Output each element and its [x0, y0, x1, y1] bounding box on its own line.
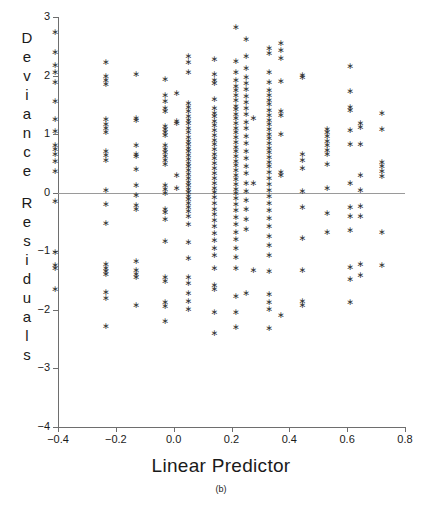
data-point: ∗: [347, 127, 354, 134]
data-point: ∗: [185, 306, 192, 313]
data-point: ∗: [347, 276, 354, 283]
data-point: ∗: [102, 81, 109, 88]
data-point: ∗: [242, 206, 249, 213]
x-tick-label: −0.4: [37, 434, 79, 445]
y-title-char: a: [23, 104, 31, 123]
data-point: ∗: [242, 36, 249, 43]
y-title-char: e: [23, 212, 31, 231]
data-point: ∗: [378, 173, 385, 180]
data-point: ∗: [52, 116, 59, 123]
data-point: ∗: [250, 115, 257, 122]
data-point: ∗: [52, 265, 59, 272]
data-point: ∗: [211, 80, 218, 87]
data-point: ∗: [323, 151, 330, 158]
data-point: ∗: [161, 161, 168, 168]
data-point: ∗: [250, 267, 257, 274]
data-point: ∗: [378, 110, 385, 117]
y-tick-label: −3: [24, 362, 50, 373]
data-point: ∗: [133, 302, 140, 309]
data-point: ∗: [52, 49, 59, 56]
data-point: ∗: [277, 112, 284, 119]
data-point: ∗: [161, 303, 168, 310]
data-point: ∗: [232, 24, 239, 31]
data-point: ∗: [211, 96, 218, 103]
data-point: ∗: [52, 168, 59, 175]
data-point: ∗: [232, 265, 239, 272]
data-point: ∗: [232, 254, 239, 261]
data-point: ∗: [266, 268, 273, 275]
data-point: ∗: [357, 172, 364, 179]
data-point: ∗: [52, 158, 59, 165]
data-point: ∗: [299, 204, 306, 211]
data-point: ∗: [242, 65, 249, 72]
data-point: ∗: [347, 107, 354, 114]
data-point: ∗: [102, 295, 109, 302]
x-tick-label: 0.8: [384, 434, 426, 445]
data-point: ∗: [161, 238, 168, 245]
y-title-char: d: [23, 269, 31, 288]
data-point: ∗: [266, 325, 273, 332]
x-tick-mark: [116, 427, 117, 432]
data-point: ∗: [102, 271, 109, 278]
data-point: ∗: [323, 185, 330, 192]
data-point: ∗: [357, 124, 364, 131]
data-point: ∗: [299, 302, 306, 309]
data-point: ∗: [266, 50, 273, 57]
y-tick-label: −1: [24, 245, 50, 256]
y-title-char: c: [23, 142, 31, 161]
data-point: ∗: [242, 226, 249, 233]
data-point: ∗: [347, 227, 354, 234]
x-tick-mark: [405, 427, 406, 432]
data-point: ∗: [299, 267, 306, 274]
data-point: ∗: [133, 166, 140, 173]
data-point: ∗: [161, 108, 168, 115]
panel-caption: (b): [0, 484, 442, 494]
data-point: ∗: [173, 120, 180, 127]
data-point: ∗: [161, 278, 168, 285]
y-title-word: Deviance: [22, 28, 33, 180]
data-point: ∗: [378, 126, 385, 133]
data-point: ∗: [211, 330, 218, 337]
y-tick-label: 0: [24, 187, 50, 198]
y-title-char: e: [23, 47, 31, 66]
x-tick-label: 0.2: [211, 434, 253, 445]
data-point: ∗: [250, 180, 257, 187]
data-point: ∗: [242, 188, 249, 195]
data-point: ∗: [347, 264, 354, 271]
data-point: ∗: [299, 74, 306, 81]
data-point: ∗: [357, 203, 364, 210]
x-tick-label: 0.0: [153, 434, 195, 445]
data-point: ∗: [52, 98, 59, 105]
data-point: ∗: [266, 252, 273, 259]
data-point: ∗: [161, 132, 168, 139]
x-tick-mark: [347, 427, 348, 432]
data-point: ∗: [266, 306, 273, 313]
data-point: ∗: [347, 180, 354, 187]
data-point: ∗: [133, 71, 140, 78]
data-point: ∗: [242, 170, 249, 177]
data-point: ∗: [185, 69, 192, 76]
data-point: ∗: [173, 185, 180, 192]
data-point: ∗: [357, 213, 364, 220]
data-point: ∗: [185, 239, 192, 246]
data-point: ∗: [102, 323, 109, 330]
x-tick-label: 0.6: [326, 434, 368, 445]
data-point: ∗: [185, 280, 192, 287]
data-point: ∗: [232, 245, 239, 252]
y-tick-label: −2: [24, 304, 50, 315]
data-point: ∗: [52, 286, 59, 293]
data-point: ∗: [102, 187, 109, 194]
data-point: ∗: [232, 236, 239, 243]
data-point: ∗: [173, 172, 180, 179]
data-point: ∗: [242, 290, 249, 297]
data-point: ∗: [323, 210, 330, 217]
data-point: ∗: [266, 242, 273, 249]
data-point: ∗: [133, 192, 140, 199]
data-point: ∗: [266, 223, 273, 230]
data-point: ∗: [323, 229, 330, 236]
data-point: ∗: [52, 29, 59, 36]
data-point: ∗: [357, 141, 364, 148]
x-tick-mark: [58, 427, 59, 432]
x-axis-title: Linear Predictor: [0, 455, 442, 477]
y-title-char: s: [23, 345, 31, 364]
